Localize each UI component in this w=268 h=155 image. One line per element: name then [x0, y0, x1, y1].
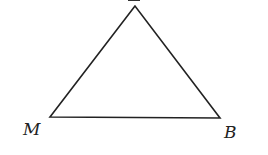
top-vertex-label-partial: [128, 0, 140, 1]
vertex-label-m: M: [22, 119, 41, 139]
triangle-diagram: M B: [0, 0, 268, 155]
triangle: [50, 6, 220, 118]
vertex-label-b: B: [223, 122, 237, 142]
